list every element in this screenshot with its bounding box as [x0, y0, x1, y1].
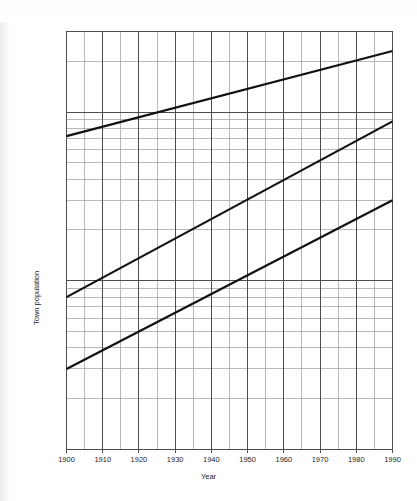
x-tick-label: 1970 — [312, 455, 329, 464]
x-axis-tick-labels: 1900191019201930194019501960197019801990 — [0, 455, 417, 469]
x-tick-label: 1910 — [94, 455, 111, 464]
x-tick-label: 1940 — [203, 455, 220, 464]
y-axis-title-text: Town population — [32, 271, 41, 325]
semilog-population-chart: 1,00010,000100,000 190019101920193019401… — [0, 0, 417, 501]
x-axis-title: Year — [0, 472, 417, 481]
x-tick-label: 1980 — [348, 455, 365, 464]
x-tick-label: 1990 — [384, 455, 401, 464]
x-tick-label: 1960 — [275, 455, 292, 464]
x-tick-label: 1930 — [167, 455, 184, 464]
y-axis-title: Town population — [22, 215, 36, 335]
chart-plot-area — [0, 0, 417, 501]
x-tick-label: 1920 — [131, 455, 148, 464]
x-tick-label: 1900 — [58, 455, 75, 464]
x-tick-label: 1950 — [239, 455, 256, 464]
